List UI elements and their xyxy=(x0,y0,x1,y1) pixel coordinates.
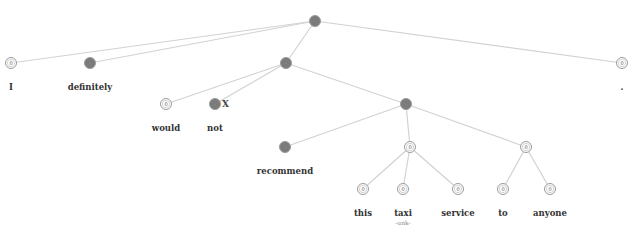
word-label: anyone xyxy=(533,208,567,218)
tree-node-period[interactable]: 0. xyxy=(617,58,628,93)
tree-edge xyxy=(503,147,526,189)
node-sentiment-label: - xyxy=(214,101,216,107)
word-label: would xyxy=(151,123,180,133)
node-sentiment-label: - xyxy=(285,60,287,66)
tree-node-would[interactable]: 0would xyxy=(151,99,180,134)
tree-edge xyxy=(363,147,410,189)
tree-edge xyxy=(315,21,622,63)
word-label: recommend xyxy=(257,166,313,176)
node-sentiment-label: - xyxy=(314,18,316,24)
node-sentiment-label: 0 xyxy=(620,60,623,66)
word-label: service xyxy=(441,208,475,218)
node-sentiment-label: - xyxy=(405,101,407,107)
tree-node-to[interactable]: 0to xyxy=(498,184,509,219)
node-sentiment-label: - xyxy=(89,60,91,66)
tree-edge xyxy=(286,63,406,104)
tree-edge xyxy=(526,147,550,189)
tree-edge xyxy=(90,21,315,63)
word-label: not xyxy=(207,123,223,133)
tree-node-recommend[interactable]: -recommend xyxy=(257,142,313,177)
node-sentiment-label: 0 xyxy=(456,186,459,192)
tree-node-this[interactable]: 0this xyxy=(354,184,372,219)
word-label: definitely xyxy=(68,82,114,92)
node-sentiment-label: 0 xyxy=(548,186,551,192)
node-sentiment-label: 0 xyxy=(524,144,527,150)
tree-node-definitely[interactable]: -definitely xyxy=(68,58,114,93)
word-label: I xyxy=(9,82,13,92)
tree-edges xyxy=(11,21,622,189)
node-sentiment-label: - xyxy=(284,144,286,150)
tree-node-service[interactable]: 0service xyxy=(441,184,475,219)
unknown-token-label: -unk- xyxy=(395,219,410,226)
tree-node-pp[interactable]: 0 xyxy=(521,142,532,153)
word-label: . xyxy=(621,82,624,92)
node-sentiment-label: 0 xyxy=(501,186,504,192)
node-sentiment-label: 0 xyxy=(164,101,167,107)
word-label: taxi xyxy=(394,208,413,218)
node-sentiment-label: 0 xyxy=(9,60,12,66)
tree-node-np[interactable]: 0 xyxy=(405,142,416,153)
tree-node-taxi[interactable]: 0taxi-unk- xyxy=(394,184,413,227)
word-label: this xyxy=(354,208,372,218)
tree-edge xyxy=(11,21,315,63)
tree-node-vp1[interactable]: - xyxy=(281,58,292,69)
tree-edge xyxy=(286,21,315,63)
tree-node-vp2[interactable]: - xyxy=(401,99,412,110)
tree-edge xyxy=(285,104,406,147)
word-label: to xyxy=(498,208,508,218)
node-sentiment-label: 0 xyxy=(408,144,411,150)
tree-node-I[interactable]: 0I xyxy=(6,58,17,93)
node-sentiment-label: 0 xyxy=(361,186,364,192)
tree-node-root[interactable]: - xyxy=(310,16,321,27)
tree-edge xyxy=(406,104,410,147)
tree-edge xyxy=(410,147,458,189)
negation-mark: X xyxy=(222,99,229,109)
tree-nodes: -0I-definitely-0.0would-Xnot--recommend0… xyxy=(6,16,628,227)
tree-edge xyxy=(403,147,410,189)
sentiment-tree: -0I-definitely-0.0would-Xnot--recommend0… xyxy=(0,0,630,235)
tree-edge xyxy=(406,104,526,147)
tree-node-not[interactable]: -Xnot xyxy=(207,99,229,134)
node-sentiment-label: 0 xyxy=(401,186,404,192)
tree-node-anyone[interactable]: 0anyone xyxy=(533,184,567,219)
